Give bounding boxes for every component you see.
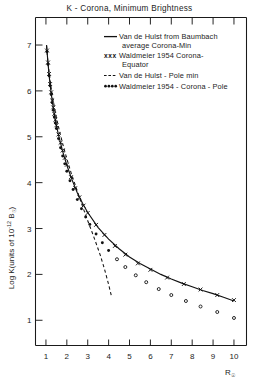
x-tick-labels: 12345678910 xyxy=(44,352,239,361)
data-marker-dot xyxy=(80,207,83,210)
data-marker-dot xyxy=(157,288,160,291)
data-marker-dot xyxy=(49,84,52,87)
data-marker-dot xyxy=(72,188,75,191)
y-ticks-left xyxy=(36,45,43,320)
legend-label-cont: average Corona-Min xyxy=(122,41,191,50)
data-marker-dot xyxy=(54,122,57,125)
data-marker-dot xyxy=(47,63,50,66)
legend-swatch-dot-markers xyxy=(104,85,107,88)
data-marker-dot xyxy=(51,101,54,104)
series-2 xyxy=(47,46,112,297)
data-marker-dot xyxy=(199,305,202,308)
legend-swatch-dot-markers xyxy=(108,85,111,88)
legend-swatch-dot-markers xyxy=(114,85,117,88)
x-axis-title: R☉ xyxy=(225,368,236,378)
series-line-dashed xyxy=(47,46,112,297)
data-marker-dot xyxy=(184,300,187,303)
x-tick-label: 4 xyxy=(106,352,111,361)
legend-label: Van de Hulst - Pole min xyxy=(119,71,198,80)
data-marker-dot xyxy=(101,241,104,244)
data-marker-dot xyxy=(115,258,118,261)
data-marker-dot xyxy=(50,93,53,96)
data-marker-dot xyxy=(170,294,173,297)
data-marker-x xyxy=(94,223,98,227)
svg-text:R☉: R☉ xyxy=(225,368,236,378)
data-marker-dot xyxy=(88,223,91,226)
data-marker-dot xyxy=(216,311,219,314)
x-ticks-top xyxy=(46,18,234,25)
chart-title: K - Corona, Minimum Brightness xyxy=(67,4,193,13)
x-tick-label: 2 xyxy=(65,352,70,361)
y-tick-label: 1 xyxy=(27,316,32,325)
y-tick-label: 6 xyxy=(27,87,32,96)
data-marker-dot xyxy=(48,74,51,77)
x-tick-label: 9 xyxy=(211,352,216,361)
data-marker-dot xyxy=(84,216,87,219)
data-marker-dot xyxy=(134,274,137,277)
x-tick-label: 8 xyxy=(190,352,195,361)
data-marker-dot xyxy=(232,316,235,319)
data-marker-dot xyxy=(57,137,60,140)
data-marker-x xyxy=(103,233,107,237)
x-ticks-bottom xyxy=(46,340,234,346)
data-marker-dot xyxy=(69,179,72,182)
data-marker-dot xyxy=(55,127,58,130)
svg-text:Log K(units of 10-12 B☉): Log K(units of 10-12 B☉) xyxy=(6,206,16,289)
k-corona-brightness-chart: K - Corona, Minimum Brightness 123456789… xyxy=(0,0,259,389)
y-tick-label: 7 xyxy=(27,41,32,50)
data-marker-dot xyxy=(52,109,55,112)
data-marker-dot xyxy=(46,50,49,53)
legend-swatch-dot-markers xyxy=(111,85,114,88)
y-tick-label: 2 xyxy=(27,270,32,279)
legend-entry-2: Van de Hulst - Pole min xyxy=(104,71,198,80)
data-marker-dot xyxy=(63,162,66,165)
data-marker-dot xyxy=(76,198,79,201)
legend-label-cont: Equator xyxy=(122,60,149,69)
data-marker-dot xyxy=(59,146,62,149)
x-tick-label: 5 xyxy=(127,352,132,361)
y-tick-label: 3 xyxy=(27,225,32,234)
x-tick-label: 1 xyxy=(44,352,49,361)
x-tick-label: 6 xyxy=(148,352,153,361)
legend-swatch-x-markers: xxx xyxy=(104,52,117,59)
legend-entry-0: Van de Hulst from Baumbachaverage Corona… xyxy=(104,32,218,50)
data-marker-dot xyxy=(145,281,148,284)
data-marker-dot xyxy=(124,266,127,269)
legend-entry-3: Waldmeier 1954 - Corona - Pole xyxy=(104,82,228,91)
data-marker-dot xyxy=(61,155,64,158)
y-tick-label: 5 xyxy=(27,133,32,142)
data-marker-dot xyxy=(107,249,110,252)
legend-label: Waldmeier 1954 - Corona - Pole xyxy=(119,82,228,91)
y-tick-labels: 1234567 xyxy=(27,41,32,325)
data-marker-dot xyxy=(65,170,68,173)
x-tick-label: 10 xyxy=(230,352,239,361)
data-marker-dot xyxy=(53,116,56,119)
chart-legend: Van de Hulst from Baumbachaverage Corona… xyxy=(104,32,228,91)
y-axis-title: Log K(units of 10-12 B☉) xyxy=(6,206,16,289)
y-tick-label: 4 xyxy=(27,179,32,188)
data-marker-dot xyxy=(95,233,98,236)
legend-entry-1: xxxWaldmeier 1954 Corona-Equator xyxy=(104,51,204,69)
x-tick-label: 3 xyxy=(86,352,91,361)
x-tick-label: 7 xyxy=(169,352,174,361)
